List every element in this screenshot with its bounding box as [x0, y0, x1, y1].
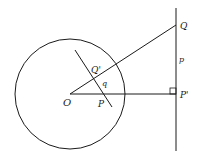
label-O: O	[63, 97, 71, 108]
right-angle-marker	[170, 88, 176, 94]
label-P: P	[97, 99, 105, 109]
line-o-to-q	[70, 25, 176, 94]
label-Q: Q	[180, 21, 188, 31]
label-p: p	[179, 55, 184, 64]
label-Q-prime: Q'	[91, 65, 101, 75]
label-q: q	[102, 79, 107, 88]
inversion-diagram: O P Q' q Q p P'	[0, 0, 201, 158]
label-P-prime: P'	[179, 90, 189, 100]
